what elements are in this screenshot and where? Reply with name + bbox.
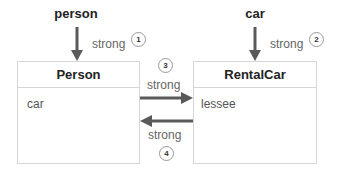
reference-1-label: strong [92, 37, 125, 51]
reference-1-circle: 1 [131, 32, 146, 47]
arrowhead-3 [181, 92, 193, 104]
arrowhead-4 [140, 115, 152, 127]
reference-4-circle: 4 [159, 146, 174, 161]
arrowhead-1 [71, 50, 83, 61]
reference-3-label: strong [147, 78, 180, 92]
reference-4-label: strong [148, 128, 181, 142]
reference-2-circle: 2 [309, 32, 324, 47]
arrowhead-2 [249, 50, 261, 61]
reference-3-circle: 3 [158, 58, 173, 73]
reference-2-label: strong [270, 37, 303, 51]
